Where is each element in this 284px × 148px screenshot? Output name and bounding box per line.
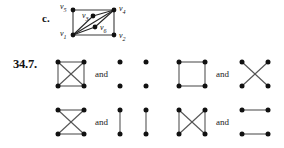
vertex-bottom-right [203,84,208,89]
vertex-top-right [82,108,87,113]
vertex-top-right [203,108,208,113]
vertex-bottom-left [118,132,123,137]
vertex-top-left [177,60,182,65]
vertex-top-left [56,108,61,113]
vertex-v2 [112,33,117,38]
vertex-v1 [71,33,76,38]
vertex-bottom-left [56,132,61,137]
graph-four-cycle-square-svg [175,58,209,90]
vertex-bottom-left [177,84,182,89]
vertex-bottom-right [82,84,87,89]
vertex-bottom-right [266,132,271,137]
graph-empty-four-vertices [116,58,150,90]
vertex-top-left [56,60,61,65]
vertex-label-v1: v1 [60,30,67,40]
labeled-graph-c: v5 v4 v3 v1 v2 v6 [62,5,142,45]
vertex-label-v6: v6 [100,24,107,34]
graph-four-cycle-square [175,58,209,90]
part-label-c: c. [42,13,50,24]
vertex-label-v5-sub: 5 [64,7,67,13]
vertex-bottom-left [118,84,123,89]
vertex-top-left [240,108,245,113]
vertex-top-right [266,60,271,65]
figure-page: c. v5 v4 v3 v1 v2 v6 [0,0,284,148]
graph-two-vertical-edges [116,106,150,138]
vertex-label-v4: v4 [119,5,126,15]
graph-two-diagonals-x-svg [238,58,272,90]
vertex-bottom-right [203,132,208,137]
vertex-bottom-left [240,132,245,137]
conjunction-and-3: and [95,118,108,127]
vertex-v3 [91,14,96,19]
exercise-number-label: 34.7. [13,58,37,71]
vertex-top-right [82,60,87,65]
vertex-top-right [203,60,208,65]
graph-top-bottom-and-diagonals-svg [54,106,88,138]
vertex-top-left [240,60,245,65]
graph-two-horizontal-edges-svg [238,106,272,138]
vertex-top-right [144,108,149,113]
vertex-bottom-left [177,132,182,137]
vertex-label-v3: v3 [82,12,89,22]
vertex-bottom-left [240,84,245,89]
vertex-v4 [112,8,117,13]
vertex-v6 [93,25,98,30]
vertex-label-v4-sub: 4 [123,9,126,15]
vertex-label-v6-sub: 6 [104,28,107,34]
graph-two-vertical-edges-svg [116,106,150,138]
conjunction-and-4: and [216,118,229,127]
vertex-bottom-left [56,84,61,89]
graph-k4-complete-svg [54,58,88,90]
graph-sides-and-diagonals [175,106,209,138]
graph-two-horizontal-edges [238,106,272,138]
graph-top-bottom-and-diagonals [54,106,88,138]
graph-empty-four-vertices-svg [116,58,150,90]
conjunction-and-1: and [95,70,108,79]
vertex-top-right [144,60,149,65]
vertex-bottom-right [144,84,149,89]
conjunction-and-2: and [216,70,229,79]
graph-k4-complete [54,58,88,90]
vertex-top-left [118,60,123,65]
vertex-label-v5: v5 [60,3,67,13]
vertex-top-left [177,108,182,113]
vertex-bottom-right [144,132,149,137]
vertex-bottom-right [266,84,271,89]
vertex-label-v2-sub: 2 [123,36,126,42]
graph-sides-and-diagonals-svg [175,106,209,138]
graph-two-diagonals-x [238,58,272,90]
vertex-label-v3-sub: 3 [86,16,89,22]
vertex-top-left [118,108,123,113]
vertex-label-v1-sub: 1 [64,34,67,40]
vertex-top-right [266,108,271,113]
vertex-label-v2: v2 [119,32,126,42]
vertex-bottom-right [82,132,87,137]
vertex-v5 [71,8,76,13]
